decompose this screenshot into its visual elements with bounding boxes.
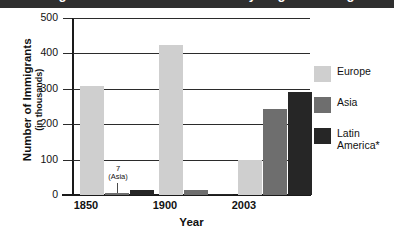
x-axis-title: Year [73, 216, 310, 228]
y-tick-100: 100 [24, 160, 58, 161]
annotation-label: (Asia) [101, 173, 135, 181]
legend-swatch-europe [314, 66, 331, 82]
legend-label-asia: Asia [337, 97, 357, 109]
legend-item-asia: Asia [314, 97, 357, 113]
x-tick-1850: 1850 [56, 199, 116, 211]
bar-2003-europe [238, 160, 262, 195]
chart-figure: Immigration to the United States by Regi… [0, 0, 394, 237]
y-tick-0: 0 [24, 195, 58, 196]
y-tick-500: 500 [24, 18, 58, 19]
legend-swatch-asia [314, 97, 331, 113]
annotation-leader-line [117, 183, 118, 193]
x-tick-1900: 1900 [135, 199, 195, 211]
bar-2003-asia [263, 109, 287, 195]
title-band: Immigration to the United States by Regi… [0, 0, 394, 8]
legend-item-latin-america: Latin America* [314, 128, 380, 152]
gridline-300 [73, 89, 310, 90]
legend-label-latin-america: Latin America* [337, 128, 380, 152]
clipped-title-text: Immigration to the United States by Regi… [0, 0, 394, 2]
bar-2003-latin-america [288, 92, 312, 195]
y-tick-400: 400 [24, 53, 58, 54]
gridline-500 [73, 18, 310, 19]
x-tick-2003: 2003 [214, 199, 274, 211]
bar-1900-europe [159, 45, 183, 196]
bar-1900-asia [184, 190, 208, 195]
plot-area: 7 (Asia) [73, 18, 310, 195]
legend-label-europe: Europe [337, 66, 371, 78]
legend-item-europe: Europe [314, 66, 371, 82]
y-tick-300: 300 [24, 89, 58, 90]
y-tick-200: 200 [24, 124, 58, 125]
legend-swatch-latin-america [314, 128, 331, 144]
annotation-asia-1850: 7 (Asia) [101, 165, 135, 181]
bar-1900-latin-america [209, 194, 233, 195]
gridline-400 [73, 53, 310, 54]
bar-1850-latin-america [130, 190, 154, 195]
